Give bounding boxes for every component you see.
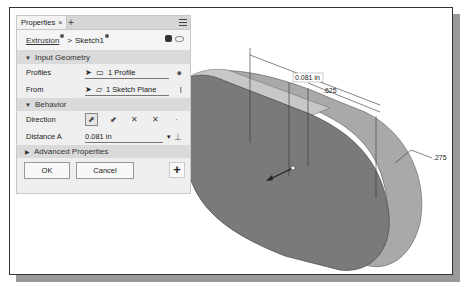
breadcrumb-separator: >: [67, 36, 72, 45]
direction-asymmetric-button[interactable]: ✕: [150, 114, 161, 125]
select-cursor-icon: ➤: [85, 68, 92, 77]
ok-button[interactable]: OK: [24, 162, 70, 179]
from-row: From ➤ ▱ 1 Sketch Plane I: [17, 81, 190, 98]
section-advanced-properties[interactable]: ▶ Advanced Properties: [17, 145, 190, 158]
profiles-label: Profiles: [26, 68, 85, 77]
preview-eye-icon[interactable]: [175, 36, 184, 42]
dimension-depth-label[interactable]: 0.081 in: [295, 74, 320, 81]
distance-a-value: 0.081 in: [85, 132, 112, 141]
distance-dropdown-icon[interactable]: ▾: [167, 133, 171, 141]
from-label: From: [26, 85, 85, 94]
direction-label: Direction: [26, 115, 85, 124]
profiles-row: Profiles ➤ ▭ 1 Profile ●: [17, 64, 190, 81]
from-selector[interactable]: ➤ ▱ 1 Sketch Plane: [85, 83, 169, 96]
manipulator-handle[interactable]: [291, 166, 295, 170]
tab-properties[interactable]: Properties ×: [17, 16, 67, 29]
properties-panel: Properties × + Extrusion > Sketch1 ▼ Inp…: [16, 15, 191, 194]
direction-default-button[interactable]: ⬈: [85, 113, 98, 126]
sketch-plane-icon: ▱: [96, 85, 102, 94]
panel-tabbar: Properties × +: [17, 16, 190, 30]
status-dot-icon: [105, 34, 109, 38]
section-behavior[interactable]: ▼ Behavior: [17, 98, 190, 111]
profile-icon: ▭: [96, 68, 104, 77]
profiles-selector[interactable]: ➤ ▭ 1 Profile: [85, 66, 169, 79]
breadcrumb: Extrusion > Sketch1: [17, 30, 190, 51]
status-dot-icon: [60, 34, 64, 38]
from-value: 1 Sketch Plane: [106, 85, 156, 94]
apply-plus-button[interactable]: +: [169, 162, 185, 178]
section-input-geometry[interactable]: ▼ Input Geometry: [17, 51, 190, 64]
solid-selector-icon[interactable]: ●: [177, 68, 182, 78]
direction-row: Direction ⬈ ⬋ ✕ ✕ ·: [17, 111, 190, 128]
tab-label: Properties: [21, 18, 55, 27]
breadcrumb-sketch[interactable]: Sketch1: [75, 36, 104, 45]
cancel-button[interactable]: Cancel: [76, 162, 134, 179]
distance-a-label: Distance A: [26, 132, 85, 141]
preset-icon[interactable]: [165, 35, 172, 42]
menu-icon[interactable]: [179, 17, 187, 26]
measure-icon[interactable]: ⊥: [174, 132, 182, 142]
text-cursor-icon[interactable]: I: [179, 85, 182, 95]
button-row: OK Cancel +: [17, 158, 190, 182]
screenshot-frame: 0.081 in .625 .275 Properties × + Extrus…: [9, 7, 453, 275]
select-cursor-icon: ➤: [85, 85, 92, 94]
section-title: Advanced Properties: [34, 147, 108, 156]
dimension-radius-label[interactable]: .275: [433, 154, 447, 161]
expand-triangle-icon: ▶: [25, 148, 30, 155]
dimension-width-label[interactable]: .625: [323, 87, 337, 94]
section-title: Input Geometry: [35, 53, 90, 62]
direction-flipped-button[interactable]: ⬋: [108, 114, 119, 125]
add-tab-button[interactable]: +: [68, 16, 74, 29]
distance-a-input[interactable]: 0.081 in: [85, 130, 163, 143]
close-icon[interactable]: ×: [58, 19, 62, 26]
profiles-value: 1 Profile: [108, 68, 136, 77]
collapse-triangle-icon: ▼: [25, 102, 31, 108]
breadcrumb-extrusion[interactable]: Extrusion: [26, 36, 59, 45]
distance-row: Distance A 0.081 in ▾ ⊥: [17, 128, 190, 145]
direction-more-dropdown[interactable]: ·: [171, 114, 182, 125]
section-title: Behavior: [35, 100, 67, 109]
direction-symmetric-button[interactable]: ✕: [129, 114, 140, 125]
collapse-triangle-icon: ▼: [25, 55, 31, 61]
